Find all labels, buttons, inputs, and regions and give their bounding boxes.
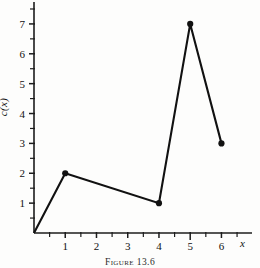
x-tick-label-3: 3	[125, 240, 131, 252]
data-series-line	[34, 24, 221, 233]
y-tick-label-6: 6	[20, 48, 26, 60]
data-point	[156, 200, 162, 206]
y-axis-tick-labels: 1234567	[20, 18, 26, 209]
figure-caption-number: 13.6	[137, 257, 155, 267]
y-tick-label-5: 5	[20, 78, 26, 90]
data-point-markers	[62, 21, 224, 206]
figure-container: 1234567 123456 x c(x) Figure 13.6	[0, 0, 260, 268]
figure-caption-prefix: Figure	[105, 257, 134, 267]
y-tick-label-7: 7	[20, 18, 26, 30]
x-tick-label-4: 4	[156, 240, 162, 252]
x-tick-label-1: 1	[62, 240, 68, 252]
x-axis-tick-labels: 123456	[62, 240, 224, 252]
y-tick-label-4: 4	[20, 108, 26, 120]
y-tick-label-3: 3	[20, 137, 26, 149]
data-point	[218, 140, 224, 146]
y-tick-label-1: 1	[20, 197, 26, 209]
figure-caption: Figure 13.6	[0, 256, 260, 268]
y-tick-label-2: 2	[20, 167, 26, 179]
data-point	[62, 170, 68, 176]
x-tick-label-6: 6	[219, 240, 225, 252]
x-tick-label-5: 5	[187, 240, 193, 252]
x-tick-label-2: 2	[94, 240, 100, 252]
x-axis-label: x	[239, 237, 245, 249]
y-axis-label: c(x)	[0, 89, 13, 125]
line-chart: 1234567 123456 x	[0, 0, 260, 252]
data-point	[187, 21, 193, 27]
